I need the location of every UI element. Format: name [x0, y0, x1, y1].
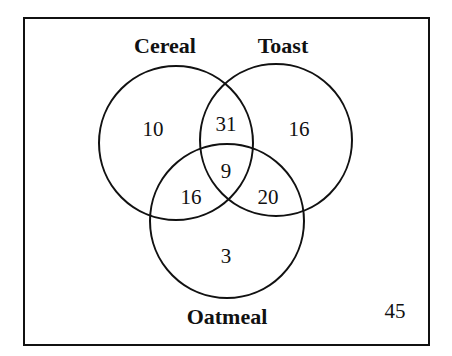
cereal-circle	[99, 66, 253, 220]
outside-value: 45	[385, 299, 406, 323]
toast-only-value: 16	[289, 117, 310, 141]
venn-diagram: Cereal Toast Oatmeal 10 31 16 9 16 20 3 …	[0, 0, 452, 356]
cereal-toast-value: 31	[216, 112, 237, 136]
cereal-label: Cereal	[134, 33, 196, 58]
cereal-oatmeal-value: 16	[181, 185, 202, 209]
all-three-value: 9	[221, 159, 232, 183]
toast-label: Toast	[258, 33, 309, 58]
oatmeal-label: Oatmeal	[187, 304, 268, 329]
toast-oatmeal-value: 20	[258, 185, 279, 209]
cereal-only-value: 10	[143, 117, 164, 141]
oatmeal-only-value: 3	[221, 244, 232, 268]
